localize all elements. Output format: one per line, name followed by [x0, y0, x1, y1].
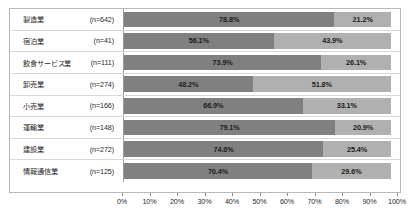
chart-row: 建設業(n=272)74.6%25.4% [10, 139, 400, 161]
x-axis-tick-label: 50% [252, 197, 266, 206]
bar-segment-value: 29.6% [341, 167, 361, 176]
bar-segment-value: 21.2% [353, 15, 373, 24]
bar-segment-value: 56.1% [189, 36, 209, 45]
bar-segment-primary: 48.2% [124, 76, 253, 91]
category-sample-size: (n=642) [90, 15, 123, 24]
bar-segment-value: 51.8% [312, 80, 332, 89]
stacked-bar: 73.9%26.1% [124, 55, 391, 70]
bar-plot-cell: 73.9%26.1% [123, 52, 400, 73]
bar-segment-value: 25.4% [347, 145, 367, 154]
category-sample-size: (n=111) [91, 58, 123, 67]
bar-plot-cell: 48.2%51.8% [123, 74, 400, 95]
bar-segment-value: 78.8% [219, 15, 239, 24]
x-axis-tick-label: 90% [362, 197, 376, 206]
bar-segment-secondary: 21.2% [334, 12, 391, 27]
category-name: 運輸業 [23, 122, 44, 132]
x-axis-tick-label: 70% [307, 197, 321, 206]
bar-segment-value: 26.1% [346, 58, 366, 67]
bar-segment-value: 70.4% [208, 167, 228, 176]
bar-segment-primary: 56.1% [124, 33, 274, 48]
stacked-bar: 78.8%21.2% [124, 12, 391, 27]
category-name: 建設業 [23, 144, 44, 154]
bar-plot-cell: 74.6%25.4% [123, 139, 400, 160]
bar-segment-primary: 74.6% [124, 141, 323, 156]
stacked-bar: 79.1%20.9% [124, 120, 391, 135]
x-axis-tick-mark [260, 193, 261, 196]
x-axis: 0%10%20%30%40%50%60%70%80%90%100% [122, 193, 397, 217]
category-label-cell: 製造業(n=642) [10, 9, 123, 30]
bar-segment-secondary: 51.8% [253, 76, 391, 91]
x-axis-tick-label: 100% [388, 197, 406, 206]
x-axis-tick-label: 20% [170, 197, 184, 206]
bar-segment-secondary: 20.9% [335, 120, 391, 135]
chart-row: 卸売業(n=274)48.2%51.8% [10, 74, 400, 96]
stacked-bar: 66.9%33.1% [124, 98, 391, 113]
bar-segment-secondary: 29.6% [312, 163, 391, 179]
category-sample-size: (n=274) [90, 80, 123, 89]
x-axis-tick-mark [315, 193, 316, 196]
x-axis-tick-label: 60% [280, 197, 294, 206]
bar-segment-value: 43.9% [322, 36, 342, 45]
bar-segment-secondary: 26.1% [321, 55, 391, 70]
bar-segment-value: 74.6% [213, 145, 233, 154]
bar-segment-secondary: 25.4% [323, 141, 391, 156]
x-axis-tick-label: 0% [117, 197, 127, 206]
bar-segment-primary: 79.1% [124, 120, 335, 135]
bar-segment-value: 66.9% [203, 101, 223, 110]
bar-plot-cell: 66.9%33.1% [123, 96, 400, 117]
category-name: 卸売業 [23, 79, 44, 89]
category-sample-size: (n=148) [90, 123, 123, 132]
x-axis-tick-mark [370, 193, 371, 196]
chart-row: 小売業(n=166)66.9%33.1% [10, 96, 400, 118]
category-sample-size: (n=125) [90, 167, 123, 176]
category-name: 飲食サービス業 [23, 58, 71, 68]
bar-segment-value: 73.9% [213, 58, 233, 67]
stacked-bar: 70.4%29.6% [124, 163, 391, 179]
x-axis-tick-mark [205, 193, 206, 196]
category-label-cell: 飲食サービス業(n=111) [10, 52, 123, 73]
bar-segment-value: 79.1% [219, 123, 239, 132]
x-axis-tick-mark [177, 193, 178, 196]
stacked-bar: 48.2%51.8% [124, 76, 391, 91]
bar-segment-primary: 73.9% [124, 55, 321, 70]
chart-frame: 製造業(n=642)78.8%21.2%宿泊業(n=41)56.1%43.9%飲… [9, 8, 401, 193]
chart-row: 飲食サービス業(n=111)73.9%26.1% [10, 52, 400, 74]
bar-segment-primary: 70.4% [124, 163, 312, 179]
stacked-bar: 56.1%43.9% [124, 33, 391, 48]
x-axis-tick-label: 30% [197, 197, 211, 206]
category-sample-size: (n=272) [90, 145, 123, 154]
bar-plot-cell: 56.1%43.9% [123, 31, 400, 52]
category-label-cell: 卸売業(n=274) [10, 74, 123, 95]
category-name: 宿泊業 [23, 36, 44, 46]
x-axis-tick-label: 10% [142, 197, 156, 206]
bar-plot-cell: 79.1%20.9% [123, 117, 400, 138]
category-label-cell: 宿泊業(n=41) [10, 31, 123, 52]
bar-segment-secondary: 43.9% [274, 33, 391, 48]
chart-row: 運輸業(n=148)79.1%20.9% [10, 117, 400, 139]
category-name: 小売業 [23, 101, 44, 111]
x-axis-tick-mark [150, 193, 151, 196]
x-axis-tick-mark [342, 193, 343, 196]
bar-segment-secondary: 33.1% [303, 98, 391, 113]
x-axis-tick-mark [232, 193, 233, 196]
x-axis-tick-mark [287, 193, 288, 196]
x-axis-tick-mark [397, 193, 398, 196]
bar-plot-cell: 78.8%21.2% [123, 9, 400, 30]
chart-row: 情報通信業(n=125)70.4%29.6% [10, 160, 400, 182]
chart-row: 宿泊業(n=41)56.1%43.9% [10, 31, 400, 53]
bar-plot-cell: 70.4%29.6% [123, 160, 400, 182]
category-label-cell: 運輸業(n=148) [10, 117, 123, 138]
bar-segment-value: 20.9% [353, 123, 373, 132]
chart-row: 製造業(n=642)78.8%21.2% [10, 9, 400, 31]
x-axis-tick-label: 40% [225, 197, 239, 206]
category-name: 製造業 [23, 14, 44, 24]
category-label-cell: 建設業(n=272) [10, 139, 123, 160]
chart-rows-container: 製造業(n=642)78.8%21.2%宿泊業(n=41)56.1%43.9%飲… [10, 9, 400, 182]
bar-segment-primary: 66.9% [124, 98, 303, 113]
category-label-cell: 小売業(n=166) [10, 96, 123, 117]
category-sample-size: (n=166) [90, 101, 123, 110]
stacked-bar: 74.6%25.4% [124, 141, 391, 156]
bar-segment-value: 33.1% [337, 101, 357, 110]
category-sample-size: (n=41) [94, 36, 123, 45]
x-axis-tick-label: 80% [335, 197, 349, 206]
